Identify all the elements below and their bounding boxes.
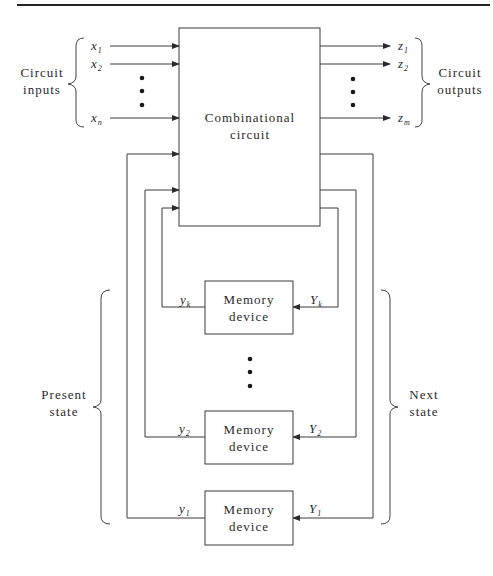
memory-k-label-line1: Memory	[224, 292, 275, 307]
present-state-label-line1: Present	[41, 387, 86, 402]
outputs-group-label-line2: outputs	[437, 82, 482, 97]
ellipsis-dot-icon	[248, 357, 253, 362]
combinational-label-line2: circuit	[230, 127, 270, 142]
input-x1-label: x1	[90, 38, 102, 55]
ellipsis-dot-icon	[351, 103, 356, 108]
combinational-circuit-block: Combinational circuit	[179, 28, 320, 226]
memory-1-label-line1: Memory	[224, 502, 275, 517]
output-z1-label: z1	[397, 38, 408, 55]
inputs-brace-icon	[68, 38, 84, 127]
present-y2-label: y2	[177, 421, 190, 438]
circuit-outputs: z1 z2 zm Circuit outputs	[320, 38, 483, 127]
ellipsis-dot-icon	[351, 90, 356, 95]
present-state-brace-icon	[93, 290, 110, 524]
feedback-Y2-line	[293, 190, 356, 437]
outputs-brace-icon	[415, 38, 430, 127]
present-y1-label: y1	[177, 501, 190, 518]
next-Yk-label: Yk	[310, 292, 322, 309]
present-state-label-line2: state	[50, 404, 79, 419]
inputs-group-label-line2: inputs	[23, 82, 61, 97]
inputs-group-label-line1: Circuit	[20, 65, 63, 80]
circuit-inputs: x1 x2 xn Circuit inputs	[20, 38, 179, 127]
sequential-circuit-diagram: Combinational circuit x1 x2 xn Circuit i…	[0, 0, 493, 576]
outputs-group-label-line1: Circuit	[438, 65, 481, 80]
ellipsis-dot-icon	[351, 77, 356, 82]
ellipsis-dot-icon	[248, 384, 253, 389]
next-state-label-line2: state	[410, 404, 439, 419]
ellipsis-dot-icon	[248, 370, 253, 375]
next-Y2-label: Y2	[309, 421, 321, 438]
input-xn-label: xn	[90, 110, 102, 127]
next-Y1-label: Y1	[309, 501, 321, 518]
ellipsis-dot-icon	[140, 76, 145, 81]
combinational-label-line1: Combinational	[205, 110, 295, 125]
output-zm-label: zm	[397, 110, 410, 127]
input-x2-label: x2	[90, 56, 102, 73]
ellipsis-dot-icon	[140, 89, 145, 94]
memory-2-label-line1: Memory	[224, 422, 275, 437]
memory-1-label-line2: device	[229, 519, 269, 534]
next-state-label-line1: Next	[409, 387, 438, 402]
next-state-brace-icon	[381, 290, 398, 524]
ellipsis-dot-icon	[140, 103, 145, 108]
feedback-y2-line	[145, 190, 205, 437]
output-z2-label: z2	[397, 56, 408, 73]
memory-k-label-line2: device	[229, 309, 269, 324]
present-yk-label: yk	[178, 292, 191, 309]
memory-2-label-line2: device	[229, 439, 269, 454]
